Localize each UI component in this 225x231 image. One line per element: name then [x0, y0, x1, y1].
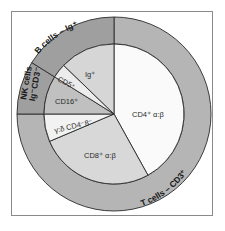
- lymphocyte-pie-diagram: B cells – Ig⁺ T cells – CD3⁺ NK cells Ig…: [0, 0, 225, 231]
- cd4-label: CD4⁺ α:β: [132, 110, 165, 119]
- cd16-label: CD16⁺: [55, 97, 78, 106]
- cd8-label: CD8⁺ α:β: [84, 151, 117, 160]
- ig-label: Ig⁺: [85, 70, 95, 79]
